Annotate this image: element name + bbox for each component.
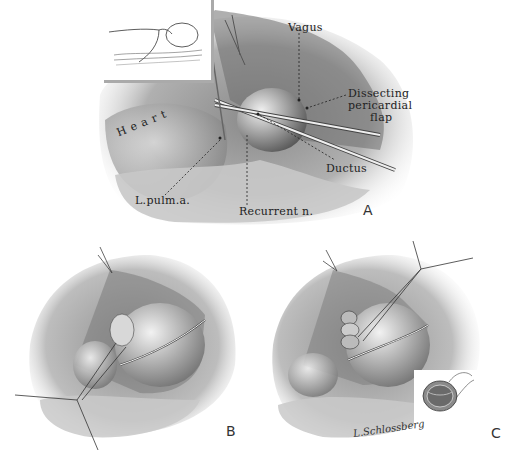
inset-ductus-cross-section: C bbox=[414, 370, 506, 450]
inset-infant-position bbox=[104, 0, 214, 83]
label-pulm-artery: L.pulm.a. bbox=[135, 195, 190, 206]
label-pericardial: pericardial bbox=[348, 100, 412, 111]
panel-letter-b: B bbox=[226, 424, 236, 438]
label-ductus: Ductus bbox=[326, 163, 367, 174]
panel-letter-c: C bbox=[491, 426, 501, 440]
label-dissecting: Dissecting bbox=[348, 88, 409, 99]
panel-a: Heart Vagus Dissecting pericardial flap … bbox=[0, 0, 506, 230]
label-vagus: Vagus bbox=[288, 22, 323, 33]
panel-letter-a: A bbox=[363, 203, 373, 217]
label-flap: flap bbox=[370, 112, 392, 123]
panel-a-illustration bbox=[0, 0, 506, 230]
panel-c: C L.Schlossberg bbox=[253, 225, 506, 450]
infant-sketch-icon bbox=[104, 0, 211, 80]
panel-b-illustration bbox=[0, 225, 253, 450]
panel-b: B bbox=[0, 225, 253, 450]
label-recurrent-nerve: Recurrent n. bbox=[239, 206, 313, 217]
